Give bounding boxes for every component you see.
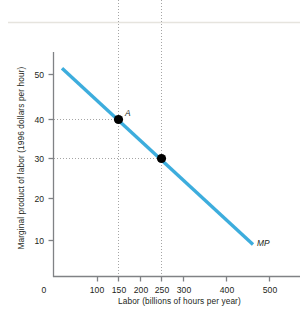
y-axis-title: Marginal product of labor (1996 dollars … (16, 44, 26, 272)
x-tick-label-250: 250 (155, 285, 169, 295)
x-tick-label-500: 500 (263, 285, 277, 295)
x-tick-label-400: 400 (220, 285, 234, 295)
figure-marginal-product-of-labor: 50 40 30 20 10 0 100 150 200 250 300 400… (0, 0, 308, 316)
data-point-a (114, 115, 123, 124)
chart-canvas (0, 0, 308, 316)
x-tick-label-100: 100 (90, 285, 104, 295)
x-tick-label-0: 0 (42, 285, 47, 295)
point-a-label: A (125, 108, 131, 118)
mp-curve-label: MP (257, 238, 270, 248)
data-point-b (157, 154, 166, 163)
x-axis-title: Labor (billions of hours per year) (118, 296, 241, 306)
x-tick-label-200: 200 (134, 285, 148, 295)
x-tick-label-150: 150 (112, 285, 126, 295)
x-tick-label-300: 300 (177, 285, 191, 295)
